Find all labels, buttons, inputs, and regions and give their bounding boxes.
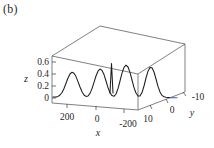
y-tick-label-10: 10 <box>143 114 153 124</box>
y-axis-ticks <box>150 92 186 109</box>
figure-panel-b: (b) 0.6 0.4 0.2 0 z <box>0 0 214 148</box>
y-tick-label-0: 0 <box>170 105 175 115</box>
x-tick-label--200: -200 <box>119 119 137 129</box>
box-edge-x-axis <box>52 103 138 110</box>
plot-canvas: 0.6 0.4 0.2 0 z 200 0 -200 x 10 0 -10 y <box>0 0 214 148</box>
z-tick-label-0.2: 0.2 <box>37 81 49 91</box>
z-axis-ticks <box>52 62 56 98</box>
x-axis-title: x <box>95 127 101 138</box>
box-top-face <box>52 26 185 74</box>
z-axis-title: z <box>23 73 28 84</box>
y-tick-label--10: -10 <box>192 92 205 102</box>
y-axis-title: y <box>189 107 195 118</box>
z-tick-label-0.4: 0.4 <box>37 69 49 79</box>
z-tick-label-0: 0 <box>44 93 49 103</box>
y-tick-10 <box>150 105 152 109</box>
y-tick--10 <box>183 92 186 96</box>
y-tick-0 <box>166 99 168 103</box>
x-tick-label-200: 200 <box>60 112 75 122</box>
x-tick-label-0: 0 <box>95 114 100 124</box>
wave-profile-group <box>53 64 177 98</box>
z-tick-label-0.6: 0.6 <box>37 57 49 67</box>
